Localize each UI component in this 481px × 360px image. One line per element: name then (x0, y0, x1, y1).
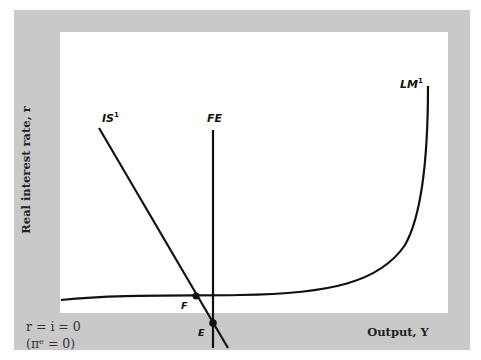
diagram-curves: IS1 FE LM1 F E (0, 0, 481, 360)
point-e-marker (209, 319, 217, 327)
point-f-label: F (181, 300, 188, 311)
lm-curve-label: LM1 (400, 77, 423, 91)
point-f-marker (193, 293, 200, 300)
is-curve-label: IS1 (102, 111, 119, 125)
point-e-label: E (198, 327, 205, 338)
is-curve (99, 128, 228, 348)
fe-line-label: FE (207, 112, 223, 125)
